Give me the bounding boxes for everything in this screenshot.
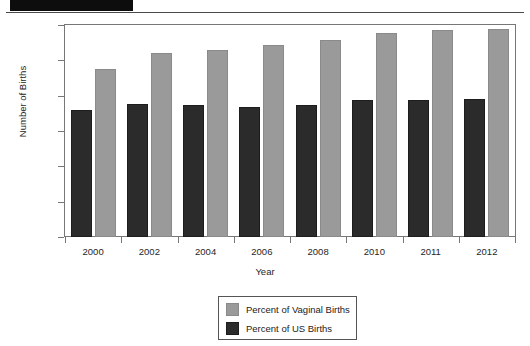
legend-label: Percent of US Births xyxy=(246,323,332,334)
x-axis-tick-label: 2006 xyxy=(251,246,272,257)
x-axis-tick-mark xyxy=(234,237,235,243)
x-axis-tick-label: 2008 xyxy=(308,246,329,257)
x-axis-tick-mark xyxy=(403,237,404,243)
y-axis-tick-mark xyxy=(58,237,64,238)
bar-us-2008 xyxy=(296,105,317,237)
bar-vaginal-2000 xyxy=(95,69,116,237)
y-axis-tick-mark xyxy=(58,25,64,26)
bar-us-2004 xyxy=(183,105,204,238)
x-axis-tick-mark xyxy=(65,237,66,243)
bar-vaginal-2002 xyxy=(151,53,172,237)
bar-us-2012 xyxy=(464,99,485,237)
y-axis-tick-mark xyxy=(58,96,64,97)
x-axis-tick-label: 2010 xyxy=(364,246,385,257)
x-axis-tick-mark xyxy=(178,237,179,243)
bar-vaginal-2006 xyxy=(263,45,284,237)
bar-vaginal-2004 xyxy=(207,50,228,237)
bar-us-2002 xyxy=(127,104,148,237)
x-axis-tick-label: 2004 xyxy=(195,246,216,257)
x-axis-tick-mark xyxy=(515,237,516,243)
y-axis-tick-mark xyxy=(58,202,64,203)
legend-item-vaginal[interactable]: Percent of Vaginal Births xyxy=(226,302,350,316)
bar-vaginal-2010 xyxy=(376,33,397,237)
y-axis-tick-mark xyxy=(58,131,64,132)
x-axis-tick-label: 2012 xyxy=(476,246,497,257)
x-axis-tick-mark xyxy=(459,237,460,243)
redaction-bar xyxy=(10,0,133,11)
bar-us-2011 xyxy=(408,100,429,237)
bar-us-2006 xyxy=(239,107,260,237)
x-axis-tick-mark xyxy=(121,237,122,243)
legend-label: Percent of Vaginal Births xyxy=(246,304,350,315)
bar-us-2000 xyxy=(71,110,92,237)
legend-swatch-us xyxy=(226,322,239,335)
y-axis-title: Number of Births xyxy=(17,42,28,162)
bar-vaginal-2008 xyxy=(320,40,341,237)
x-axis-tick-label: 2011 xyxy=(420,246,440,257)
y-axis-tick-mark xyxy=(58,166,64,167)
bar-us-2010 xyxy=(352,100,373,237)
bar-vaginal-2011 xyxy=(432,30,453,237)
x-axis-tick-label: 2000 xyxy=(83,246,104,257)
x-axis-tick-mark xyxy=(290,237,291,243)
x-axis-tick-label: 2002 xyxy=(139,246,160,257)
y-axis-tick-mark xyxy=(58,60,64,61)
bar-vaginal-2012 xyxy=(488,29,509,237)
legend-swatch-vaginal xyxy=(226,303,239,316)
x-axis-tick-mark xyxy=(346,237,347,243)
header-divider xyxy=(6,12,524,13)
chart-legend: Percent of Vaginal BirthsPercent of US B… xyxy=(218,296,357,340)
chart-page: Number of Births Year 02%4%6%8%10%12% 20… xyxy=(0,0,530,346)
x-axis-title: Year xyxy=(0,266,530,277)
legend-item-us[interactable]: Percent of US Births xyxy=(226,321,332,335)
